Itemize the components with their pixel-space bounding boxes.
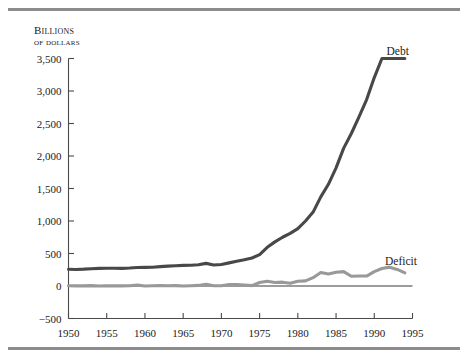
x-tick-label: 1995 [402, 328, 424, 339]
x-tick-label: 1960 [134, 328, 156, 339]
x-axis-ticks [69, 313, 413, 319]
y-tick-label: 2,500 [0, 118, 62, 129]
y-tick-label: 0 [0, 281, 62, 292]
y-tick-label: 2,000 [0, 151, 62, 162]
series-label-debt: Debt [387, 45, 409, 57]
x-tick-label: 1980 [287, 328, 309, 339]
y-axis-ticks [69, 59, 75, 319]
y-tick-label: 1,500 [0, 183, 62, 194]
y-tick-label: 3,500 [0, 53, 62, 64]
data-series-group [69, 59, 405, 287]
x-tick-label: 1990 [363, 328, 385, 339]
series-line-debt [69, 59, 405, 270]
y-tick-label: −500 [0, 313, 62, 324]
x-tick-label: 1985 [325, 328, 347, 339]
chart-figure: Billions of dollars −50005001,0001,5002,… [0, 0, 465, 361]
y-tick-label: 3,000 [0, 86, 62, 97]
series-line-deficit [69, 267, 405, 286]
x-tick-label: 1975 [249, 328, 271, 339]
x-tick-label: 1950 [58, 328, 80, 339]
x-tick-label: 1970 [210, 328, 232, 339]
axis-spines [69, 59, 413, 319]
series-label-deficit: Deficit [385, 255, 417, 267]
x-tick-label: 1955 [96, 328, 118, 339]
y-tick-label: 500 [0, 248, 62, 259]
y-tick-label: 1,000 [0, 216, 62, 227]
x-tick-label: 1965 [172, 328, 194, 339]
